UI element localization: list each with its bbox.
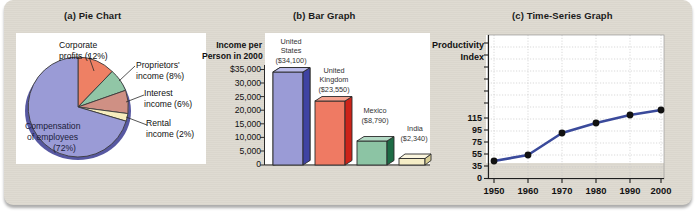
- pie-label-compensation-line1: Compensation: [25, 121, 80, 132]
- pie-label-corporate-profits-line1: Corporate: [59, 40, 97, 51]
- bar-caption-us-line1: United: [268, 37, 314, 46]
- pie-label-proprietors-income-line1: Proprietors': [136, 60, 180, 71]
- figure-root: (a) Pie Chart: [0, 0, 698, 217]
- bar-caption-us-line2: States: [268, 46, 314, 55]
- bar-mexico: [357, 137, 394, 166]
- ts-point-1990: [627, 112, 634, 119]
- pie-label-rental-income-line2: income (2%): [146, 129, 194, 140]
- pie-chart-panel: (a) Pie Chart: [0, 0, 235, 205]
- pie-label-compensation-line2: of employees: [27, 132, 78, 143]
- bar-caption-uk-line1: United: [310, 66, 358, 75]
- bar-graph-panel: (b) Bar Graph Income per Person in 2000 …: [206, 0, 438, 205]
- pie-label-interest-income-line2: income (6%): [144, 99, 192, 110]
- pie-label-proprietors-income-line2: income (8%): [136, 71, 184, 82]
- ts-data-line: [494, 110, 661, 161]
- ts-point-1970: [559, 130, 566, 137]
- bar-caption-us-value: ($34,100): [266, 56, 316, 65]
- bar-caption-uk-line2: Kingdom: [310, 75, 358, 84]
- bar-graph-graphic: [206, 25, 438, 180]
- ts-point-1980: [593, 120, 600, 127]
- pie-label-corporate-profits-line2: profits (12%): [59, 51, 108, 62]
- time-series-panel: (c) Time-Series Graph Productivity Index…: [430, 0, 698, 205]
- ts-panel-title: (c) Time-Series Graph: [512, 10, 613, 21]
- bar-caption-uk-value: ($23,550): [308, 85, 360, 94]
- ts-axis: [484, 35, 664, 183]
- ts-point-1950: [491, 158, 498, 165]
- ts-point-1960: [525, 152, 532, 159]
- pie-label-rental-income-line1: Rental: [146, 118, 171, 129]
- bar-caption-mexico-line1: Mexico: [354, 106, 396, 115]
- pie-label-interest-income-line1: Interest: [144, 88, 173, 99]
- bar-panel-title: (b) Bar Graph: [293, 10, 356, 21]
- pie-label-compensation-line3: (72%): [53, 143, 76, 154]
- bar-caption-india-line1: India: [396, 124, 434, 133]
- bar-india: [399, 154, 431, 165]
- bar-united-kingdom: [315, 97, 352, 166]
- ts-point-2000: [658, 107, 665, 114]
- bar-caption-mexico-value: ($8,790): [350, 116, 400, 125]
- ts-xtick-2000: 2000: [641, 185, 681, 196]
- pie-panel-title: (a) Pie Chart: [64, 10, 121, 21]
- bar-united-states: [273, 68, 310, 166]
- time-series-graphic: [430, 28, 698, 188]
